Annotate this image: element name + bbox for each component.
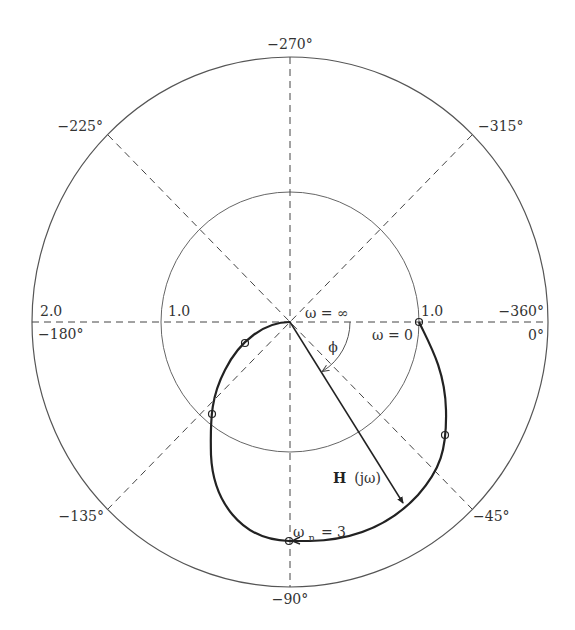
label-180: −180° <box>38 326 83 342</box>
label-225: −225° <box>58 118 103 134</box>
radius-label-1-left: 1.0 <box>168 303 190 319</box>
polar-plot: −270° −225° −315° −180° −360° 0° −135° −… <box>0 0 575 630</box>
label-45: −45° <box>473 508 510 524</box>
label-90: −90° <box>272 591 309 607</box>
polar-plot-canvas: −270° −225° −315° −180° −360° 0° −135° −… <box>0 0 575 630</box>
phi-label: ϕ <box>328 339 338 355</box>
label-135: −135° <box>59 508 104 524</box>
omega-infinity-label: ω = ∞ <box>305 305 349 321</box>
radius-label-2: 2.0 <box>40 303 62 319</box>
label-315: −315° <box>478 118 523 134</box>
radius-label-1-right: 1.0 <box>421 303 443 319</box>
label-270: −270° <box>267 36 312 52</box>
label-360: −360° <box>499 303 544 319</box>
h-vector-label: H (jω) <box>333 469 381 486</box>
omega-zero-label: ω = 0 <box>372 327 413 343</box>
label-0: 0° <box>528 327 544 343</box>
